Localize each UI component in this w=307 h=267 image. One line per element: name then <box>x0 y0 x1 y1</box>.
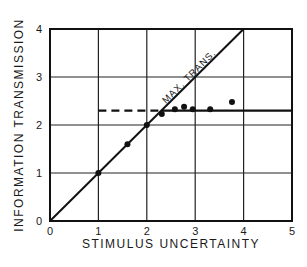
x-tick-label: 1 <box>95 225 101 237</box>
max-trans-annotation: MAX. TRANS. <box>160 47 218 105</box>
y-tick-label: 1 <box>36 167 42 179</box>
y-tick-label: 3 <box>36 71 42 83</box>
x-tick-labels: 012345 <box>47 225 295 237</box>
data-point <box>229 99 235 105</box>
y-axis-label: INFORMATION TRANSMISSION <box>12 18 26 232</box>
grid-lines <box>50 29 292 221</box>
x-axis-label: STIMULUS UNCERTAINTY <box>82 237 260 251</box>
x-tick-label: 2 <box>144 225 150 237</box>
x-tick-label: 0 <box>47 225 53 237</box>
data-point <box>207 106 213 112</box>
y-tick-labels: 01234 <box>36 23 42 227</box>
data-point <box>190 106 196 112</box>
data-point <box>124 141 130 147</box>
data-point <box>181 104 187 110</box>
y-tick-label: 4 <box>36 23 42 35</box>
chart: 012345 01234 MAX. TRANS. STIMULUS UNCERT… <box>0 0 307 267</box>
data-point <box>95 170 101 176</box>
data-point <box>172 106 178 112</box>
y-tick-label: 2 <box>36 119 42 131</box>
x-tick-label: 3 <box>192 225 198 237</box>
y-tick-label: 0 <box>36 215 42 227</box>
data-point <box>159 111 165 117</box>
data-point <box>144 122 150 128</box>
x-tick-label: 5 <box>289 225 295 237</box>
x-tick-label: 4 <box>241 225 247 237</box>
